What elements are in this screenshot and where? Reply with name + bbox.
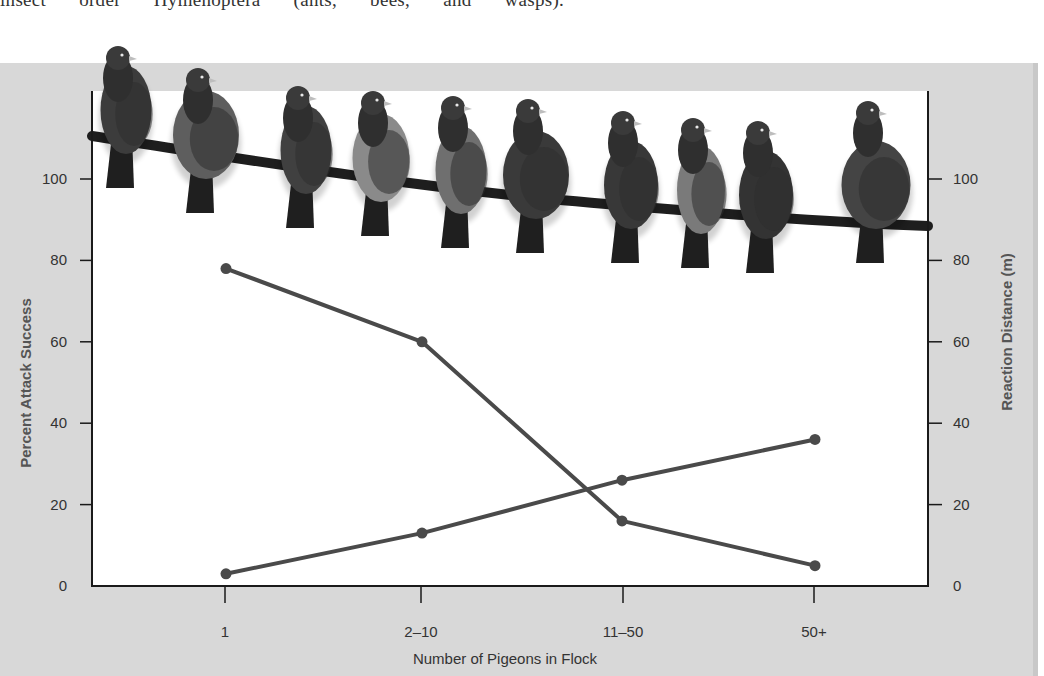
y-right-tick-label: 40	[953, 414, 970, 431]
y-tick-label: 60	[50, 333, 67, 350]
data-point-marker	[617, 515, 628, 526]
y-right-tick-label: 100	[953, 170, 978, 187]
data-point-marker	[810, 434, 821, 445]
data-point-marker	[417, 336, 428, 347]
x-axis-title: Number of Pigeons in Flock	[413, 650, 598, 667]
y-axis-left-ticks: 020406080100	[42, 170, 92, 594]
y-right-tick-label: 20	[953, 496, 970, 513]
data-point-marker	[221, 263, 232, 274]
line-chart: 020406080100 020406080100 12–1011–5050+ …	[0, 0, 1044, 676]
y-tick-label: 40	[50, 414, 67, 431]
y-tick-label: 20	[50, 496, 67, 513]
x-tick-label: 1	[221, 623, 229, 640]
y-tick-label: 80	[50, 251, 67, 268]
y-axis-right-title: Reaction Distance (m)	[998, 253, 1015, 411]
y-axis-left-title: Percent Attack Success	[17, 298, 34, 468]
y-axis-right-ticks: 020406080100	[928, 170, 978, 594]
y-right-tick-label: 60	[953, 333, 970, 350]
data-point-marker	[417, 528, 428, 539]
x-tick-label: 11–50	[603, 623, 644, 640]
y-tick-label: 0	[59, 577, 67, 594]
data-point-marker	[221, 568, 232, 579]
data-point-marker	[810, 560, 821, 571]
x-axis-ticks: 12–1011–5050+	[221, 586, 827, 640]
y-right-tick-label: 80	[953, 251, 970, 268]
y-right-tick-label: 0	[953, 577, 961, 594]
x-tick-label: 2–10	[404, 623, 437, 640]
x-tick-label: 50+	[801, 623, 827, 640]
y-tick-label: 100	[42, 170, 67, 187]
data-point-marker	[617, 475, 628, 486]
